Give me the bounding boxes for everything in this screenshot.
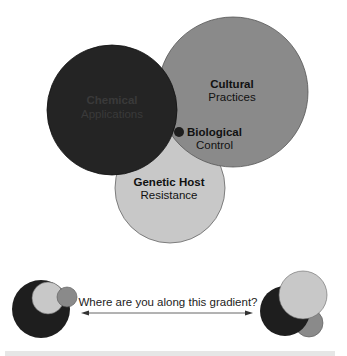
biological-label-title: Biological — [187, 126, 242, 138]
gradient-arrow-group: Where are you along this gradient? — [79, 296, 258, 316]
cropped-caption-band — [5, 351, 335, 356]
genetic-label-title: Genetic Host — [134, 176, 205, 188]
gradient-question: Where are you along this gradient? — [79, 296, 258, 308]
biological-control-dot — [174, 127, 184, 137]
arrow-head-left-icon — [81, 311, 89, 316]
right-genetic-circle — [279, 271, 327, 319]
chemical-label-title: Chemical — [86, 94, 137, 106]
biological-label-subtitle: Control — [196, 139, 233, 151]
cultural-label-title: Cultural — [210, 78, 253, 90]
main-diagram: Chemical Applications Cultural Practices… — [47, 17, 308, 243]
right-gradient-diagram — [260, 271, 327, 337]
cultural-label-subtitle: Practices — [208, 91, 256, 103]
left-cultural-circle — [57, 287, 77, 307]
left-gradient-diagram — [12, 280, 77, 338]
genetic-label-subtitle: Resistance — [141, 189, 198, 201]
arrow-head-right-icon — [245, 311, 253, 316]
chemical-label-subtitle: Applications — [81, 108, 143, 120]
ipm-diagram: Chemical Applications Cultural Practices… — [0, 0, 347, 356]
